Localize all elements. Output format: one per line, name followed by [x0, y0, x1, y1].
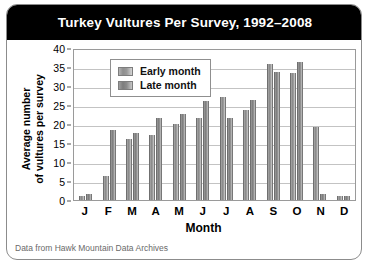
plot-wrapper: 0510152025303540 Early month Late month: [51, 49, 356, 207]
bar: [267, 64, 273, 200]
legend-label-early: Early month: [140, 65, 201, 77]
x-tick-label: N: [316, 205, 324, 217]
bar: [274, 72, 280, 200]
x-tick-label: A: [246, 205, 254, 217]
bar: [297, 62, 303, 200]
bar: [344, 196, 350, 200]
y-tick-mark: [67, 144, 71, 145]
x-tick-label: S: [270, 205, 278, 217]
bar-group: [74, 50, 97, 200]
x-tick-label: A: [151, 205, 159, 217]
bar-group: [261, 50, 284, 200]
plot-area: Early month Late month: [73, 49, 356, 201]
bar: [149, 135, 155, 200]
x-tick-label: M: [127, 205, 137, 217]
bar-group: [308, 50, 331, 200]
bar: [250, 100, 256, 200]
x-tick-label: J: [200, 205, 206, 217]
x-tick-label: J: [223, 205, 229, 217]
chart-title-bar: Turkey Vultures Per Survey, 1992–2008: [6, 4, 362, 40]
x-tick-label: J: [82, 205, 88, 217]
x-tick-label: F: [105, 205, 112, 217]
y-tick-mark: [67, 68, 71, 69]
bar: [156, 118, 162, 200]
y-tick-mark: [67, 87, 71, 88]
y-tick-label: 10: [53, 157, 65, 169]
x-tick-label: O: [293, 205, 302, 217]
page-title: Turkey Vultures Per Survey, 1992–2008: [58, 15, 312, 30]
y-tick-mark: [67, 163, 71, 164]
legend-label-late: Late month: [140, 79, 197, 91]
y-axis-ticks: 0510152025303540: [51, 49, 71, 201]
bar-group: [285, 50, 308, 200]
legend-swatch-early-icon: [118, 67, 133, 76]
bar: [133, 133, 139, 200]
chart-legend: Early month Late month: [110, 59, 211, 97]
y-tick-label: 25: [53, 100, 65, 112]
bar-group: [238, 50, 261, 200]
bar-group: [332, 50, 355, 200]
x-tick-label: D: [340, 205, 348, 217]
chart-figure: Turkey Vultures Per Survey, 1992–2008 Av…: [6, 4, 362, 260]
source-note: Data from Hawk Mountain Data Archives: [15, 243, 168, 253]
bar: [227, 118, 233, 200]
bar-group: [215, 50, 238, 200]
bar: [173, 124, 179, 200]
y-axis-label-line-2: of vultures per survey: [33, 74, 46, 184]
bar: [290, 73, 296, 200]
bar: [110, 130, 116, 200]
bar: [243, 110, 249, 200]
bar: [320, 194, 326, 200]
x-axis-label: Month: [51, 221, 356, 235]
y-axis-label-line-1: Average number: [20, 74, 33, 184]
y-tick-label: 20: [53, 119, 65, 131]
y-tick-mark: [67, 182, 71, 183]
legend-item-early: Early month: [118, 64, 201, 78]
y-tick-label: 35: [53, 62, 65, 74]
bar: [103, 176, 109, 200]
x-axis-ticks: JFMAMJJASOND: [73, 205, 356, 221]
y-tick-label: 40: [53, 43, 65, 55]
y-tick-mark: [67, 106, 71, 107]
y-tick-mark: [67, 125, 71, 126]
y-tick-label: 0: [59, 195, 65, 207]
bar: [180, 114, 186, 200]
y-axis-label: Average number of vultures per survey: [13, 49, 53, 209]
y-tick-label: 5: [59, 176, 65, 188]
bar: [220, 97, 226, 200]
y-tick-mark: [67, 49, 71, 50]
legend-item-late: Late month: [118, 78, 201, 92]
legend-swatch-late-icon: [118, 81, 133, 90]
y-tick-label: 30: [53, 81, 65, 93]
bar: [79, 196, 85, 200]
bar: [126, 139, 132, 200]
bar: [337, 196, 343, 200]
x-tick-label: M: [174, 205, 184, 217]
bar: [196, 118, 202, 200]
bar: [203, 101, 209, 200]
y-tick-mark: [67, 201, 71, 202]
y-tick-label: 15: [53, 138, 65, 150]
bar: [86, 194, 92, 200]
bar: [313, 127, 319, 200]
